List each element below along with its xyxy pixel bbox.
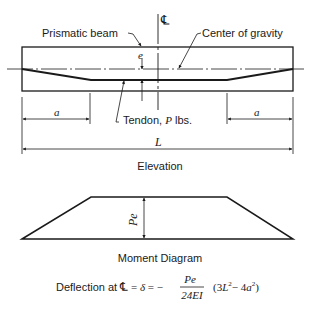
deflection-formula: Deflection at ℄ = δ = − Pe 24EI (3L2− 4a… [56, 273, 259, 301]
prismatic-beam-label: Prismatic beam [42, 27, 118, 39]
tendon [22, 69, 293, 80]
elevation-view: ℄ e Prismatic beam Center of gravity Ten… [7, 12, 304, 172]
moment-value-label: Pe [126, 213, 140, 227]
center-of-gravity-label: Center of gravity [202, 27, 283, 39]
moment-diagram: Pe Moment Diagram [22, 197, 293, 264]
formula-parenthetical: (3L2− 4a2) [213, 280, 259, 294]
dimension-a-left-label: a [54, 106, 60, 118]
prismatic-beam-leader [128, 33, 141, 46]
prestressed-beam-diagram: ℄ e Prismatic beam Center of gravity Ten… [0, 0, 320, 311]
eccentricity-label: e [138, 49, 143, 61]
moment-diagram-shape [22, 197, 293, 239]
tendon-label: Tendon, P lbs. [123, 114, 192, 126]
moment-diagram-caption: Moment Diagram [118, 252, 202, 264]
formula-denominator: 24EI [181, 289, 204, 301]
dimension-a-right-label: a [254, 106, 260, 118]
elevation-caption: Elevation [137, 160, 182, 172]
center-of-gravity-leader [179, 33, 201, 68]
dimension-L-label: L [154, 135, 162, 149]
centerline-symbol: ℄ [160, 12, 170, 27]
formula-prefix: Deflection at ℄ = δ = − [56, 280, 163, 294]
formula-numerator: Pe [183, 273, 196, 285]
